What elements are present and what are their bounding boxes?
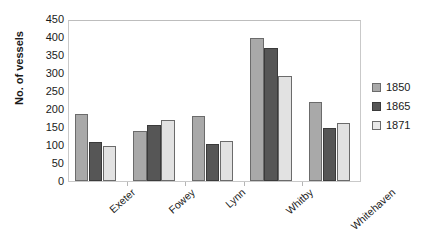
legend-item: 1865 — [372, 97, 434, 116]
legend-label: 1865 — [386, 101, 410, 112]
bar-group — [75, 21, 117, 181]
legend-item: 1850 — [372, 78, 434, 97]
y-axis-tick-label: 50 — [38, 158, 64, 169]
bar — [220, 141, 234, 181]
chart-legend: 185018651871 — [372, 78, 434, 135]
x-axis-category-label: Whitby — [283, 186, 315, 216]
x-axis-category-label: Lynn — [222, 186, 247, 210]
x-axis-category-labels: ExeterFoweyLynnWhitbyWhitehaven — [68, 186, 361, 248]
bar — [75, 114, 89, 181]
bar — [206, 144, 220, 181]
legend-swatch-icon — [372, 102, 381, 111]
y-axis-tick-label: 350 — [38, 50, 64, 61]
bar — [250, 38, 264, 181]
bar — [89, 142, 103, 181]
legend-swatch-icon — [372, 83, 381, 92]
x-axis-category-label: Whitehaven — [348, 186, 397, 232]
bar — [147, 125, 161, 181]
x-axis-category-label: Exeter — [107, 186, 138, 215]
bar — [323, 128, 337, 181]
y-axis-tick-labels: 050100150200250300350400450 — [38, 20, 64, 182]
y-axis-tick-label: 250 — [38, 86, 64, 97]
bar — [133, 131, 147, 181]
y-axis-tick-label: 0 — [38, 176, 64, 187]
y-axis-tick-label: 300 — [38, 68, 64, 79]
bar-group — [309, 21, 351, 181]
bar — [192, 116, 206, 181]
y-axis-tick-label: 400 — [38, 32, 64, 43]
bar — [264, 48, 278, 181]
bar-group — [192, 21, 234, 181]
y-axis-tick-label: 200 — [38, 104, 64, 115]
bar — [103, 146, 117, 181]
legend-item: 1871 — [372, 116, 434, 135]
bar-group — [133, 21, 175, 181]
bars-layer — [69, 21, 360, 181]
bar — [337, 123, 351, 181]
bar-chart: No. of vessels 0501001502002503003504004… — [0, 0, 437, 251]
y-axis-title: No. of vessels — [13, 13, 25, 123]
legend-label: 1850 — [386, 82, 410, 93]
bar — [309, 102, 323, 181]
x-axis-category-label: Fowey — [166, 186, 197, 216]
y-axis-tick-label: 100 — [38, 140, 64, 151]
y-axis-tick-label: 450 — [38, 14, 64, 25]
bar-group — [250, 21, 292, 181]
plot-area — [68, 20, 361, 182]
y-axis-tick-label: 150 — [38, 122, 64, 133]
bar — [161, 120, 175, 181]
bar — [278, 76, 292, 181]
legend-swatch-icon — [372, 121, 381, 130]
legend-label: 1871 — [386, 120, 410, 131]
